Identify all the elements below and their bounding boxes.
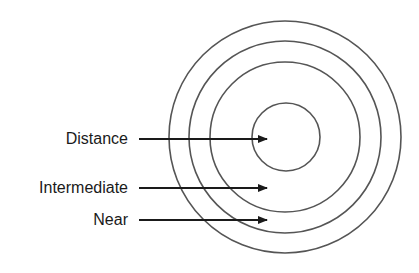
- second-ring: [189, 41, 381, 233]
- intermediate-label: Intermediate: [39, 179, 128, 197]
- distance-label: Distance: [66, 130, 128, 148]
- inner-ring: [252, 103, 320, 171]
- near-label: Near: [93, 211, 128, 229]
- outer-ring: [169, 21, 401, 253]
- concentric-circles-diagram: [0, 0, 419, 273]
- third-ring: [210, 62, 360, 212]
